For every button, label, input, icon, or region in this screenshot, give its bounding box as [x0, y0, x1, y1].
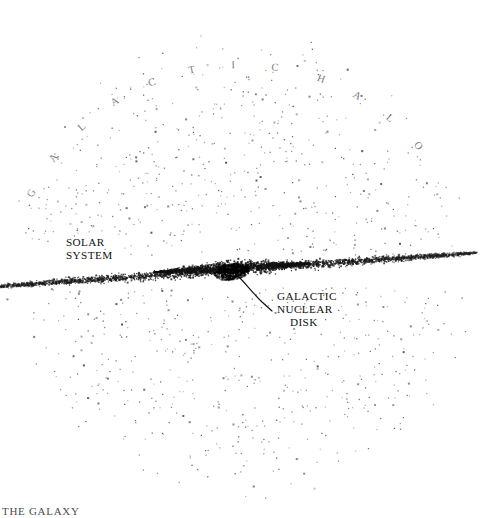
solar-system-label-line2: SYSTEM — [66, 249, 113, 261]
nuclear-disk-label-line2: NUCLEAR — [277, 303, 333, 315]
nuclear-disk-label-line3: DISK — [290, 316, 318, 328]
figure-caption-text: THE GALAXY — [2, 506, 80, 517]
solar-system-label-line1: SOLAR — [66, 236, 105, 248]
figure-caption: THE GALAXY — [0, 506, 482, 518]
nuclear-disk-label-line1: GALACTIC — [277, 290, 337, 302]
galaxy-illustration: GALACTICHALO SOLAR SYSTEM GALACTIC NUCLE… — [0, 0, 482, 518]
galaxy-diagram: GALACTICHALO SOLAR SYSTEM GALACTIC NUCLE… — [0, 0, 482, 518]
